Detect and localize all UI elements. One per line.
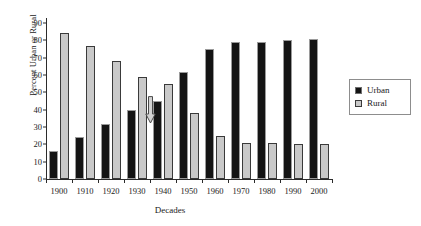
- bar-rural-1940: [164, 84, 174, 179]
- x-tick-mark: [150, 179, 151, 183]
- x-tick-mark: [202, 179, 203, 183]
- x-axis-title: Decades: [0, 205, 340, 215]
- bar-urban-2000: [309, 39, 319, 179]
- legend-label-urban: Urban: [367, 86, 390, 95]
- bar-urban-1960: [205, 49, 215, 179]
- y-tick-mark: [43, 57, 46, 58]
- legend-swatch-rural: [355, 100, 362, 107]
- x-tick-mark: [306, 179, 307, 183]
- plot-area: 0102030405060708090 19001910192019301940…: [46, 18, 332, 180]
- bar-rural-2000: [320, 144, 330, 179]
- x-tick-mark: [228, 179, 229, 183]
- y-tick-mark: [43, 144, 46, 145]
- legend-label-rural: Rural: [367, 99, 387, 108]
- legend: Urban Rural: [349, 79, 411, 115]
- y-axis-line: [46, 18, 47, 180]
- bar-urban-1950: [179, 72, 189, 179]
- x-tick-mark: [176, 179, 177, 183]
- bar-urban-1980: [257, 42, 267, 179]
- x-tick-mark: [254, 179, 255, 183]
- legend-item-urban: Urban: [355, 86, 405, 95]
- bar-chart: Percent Urban or Rural 01020304050607080…: [0, 0, 421, 226]
- bar-rural-1900: [60, 33, 70, 179]
- bar-urban-1970: [231, 42, 241, 179]
- x-tick-label: 2000: [299, 186, 339, 196]
- bar-rural-1970: [242, 143, 252, 179]
- bar-rural-1950: [190, 113, 200, 179]
- bar-rural-1930: [138, 77, 148, 179]
- y-tick-mark: [43, 92, 46, 93]
- bar-rural-1990: [294, 144, 304, 179]
- y-tick-mark: [43, 109, 46, 110]
- bar-rural-1960: [216, 136, 226, 179]
- bar-rural-1910: [86, 46, 96, 179]
- bar-urban-1930: [127, 110, 137, 179]
- down-arrow-icon: [145, 96, 156, 124]
- y-tick-mark: [43, 23, 46, 24]
- x-tick-mark: [72, 179, 73, 183]
- bar-urban-1990: [283, 40, 293, 179]
- y-tick-mark: [43, 161, 46, 162]
- legend-item-rural: Rural: [355, 99, 405, 108]
- x-axis-line: [46, 179, 332, 180]
- bar-urban-1920: [101, 124, 111, 179]
- y-tick-mark: [43, 40, 46, 41]
- legend-swatch-urban: [355, 87, 362, 94]
- y-tick-mark: [43, 75, 46, 76]
- x-tick-mark: [280, 179, 281, 183]
- bar-rural-1980: [268, 143, 278, 179]
- x-tick-mark: [98, 179, 99, 183]
- bar-urban-1910: [75, 137, 85, 179]
- x-tick-mark: [332, 179, 333, 183]
- bar-rural-1920: [112, 61, 122, 179]
- x-tick-mark: [124, 179, 125, 183]
- y-tick-mark: [43, 127, 46, 128]
- bar-urban-1900: [49, 151, 59, 179]
- x-tick-mark: [46, 179, 47, 183]
